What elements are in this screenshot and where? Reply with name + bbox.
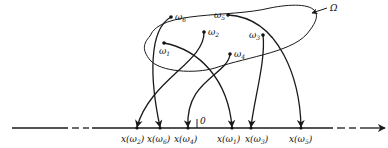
axis-label-w2: x(ω2) [121,134,145,145]
axis-point-w4 [186,126,189,129]
axis-label-w6: x(ω6) [147,134,171,145]
axis-point-w3 [249,126,252,129]
axis-point-w1 [230,126,233,129]
svg-text:ω3: ω3 [249,30,260,41]
svg-text:ω5: ω5 [214,10,225,21]
axis-label-w1: x(ω1) [217,134,241,145]
omega-label: Ω [329,3,338,13]
map-curve-w5 [228,15,301,127]
axis-label-w3: x(ω3) [245,134,269,145]
map-curve-w6 [153,17,171,127]
random-variable-diagram: Ω 0 ω6 ω1 ω2 ω4 ω3 ω5 [0,0,388,148]
map-curve-w3 [251,35,263,127]
axis-label-w4: x(ω4) [174,134,198,145]
axis-label-w5: x(ω5) [289,134,313,145]
svg-text:ω4: ω4 [234,49,245,60]
svg-text:ω1: ω1 [159,46,170,57]
point-w6: ω6 [169,12,186,23]
map-curve-w2 [137,32,204,127]
point-w5: ω5 [214,10,230,21]
point-w4: ω4 [228,49,245,60]
axis-point-w5 [299,126,302,129]
point-w3: ω3 [249,30,265,41]
axis-point-w6 [158,126,161,129]
axis-point-w2 [135,126,138,129]
svg-text:ω2: ω2 [208,27,219,38]
map-curve-w1 [164,43,232,127]
svg-text:ω6: ω6 [175,12,186,23]
origin-label: 0 [200,116,206,126]
point-w2: ω2 [202,27,219,38]
